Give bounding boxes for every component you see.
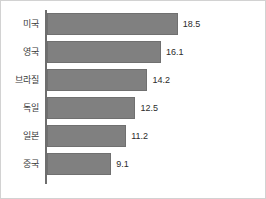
bar-value-label: 9.1 xyxy=(116,153,129,175)
bar-value-label: 14.2 xyxy=(152,69,170,91)
bar-category-label: 미국 xyxy=(1,13,39,35)
bar-value-label: 16.1 xyxy=(166,41,184,63)
bar-rect[interactable] xyxy=(47,13,178,35)
bar-rect[interactable] xyxy=(47,97,135,119)
bar-value-label: 12.5 xyxy=(140,97,158,119)
bar-row: 브라질 14.2 xyxy=(1,69,265,91)
bar-category-label: 브라질 xyxy=(1,69,39,91)
bar-rect[interactable] xyxy=(47,153,111,175)
bar-category-label: 독일 xyxy=(1,97,39,119)
chart-frame: 미국 18.5 영국 16.1 브라질 14.2 독일 12.5 일본 11.2… xyxy=(0,0,266,199)
bar-value-label: 18.5 xyxy=(183,13,201,35)
bar-row: 독일 12.5 xyxy=(1,97,265,119)
bar-row: 중국 9.1 xyxy=(1,153,265,175)
plot-area: 미국 18.5 영국 16.1 브라질 14.2 독일 12.5 일본 11.2… xyxy=(1,1,265,198)
bar-row: 영국 16.1 xyxy=(1,41,265,63)
bar-rect[interactable] xyxy=(47,69,147,91)
bar-rect[interactable] xyxy=(47,41,161,63)
bar-category-label: 중국 xyxy=(1,153,39,175)
bar-row: 미국 18.5 xyxy=(1,13,265,35)
bar-category-label: 영국 xyxy=(1,41,39,63)
bar-row: 일본 11.2 xyxy=(1,125,265,147)
bar-rect[interactable] xyxy=(47,125,126,147)
bar-category-label: 일본 xyxy=(1,125,39,147)
bar-value-label: 11.2 xyxy=(131,125,148,147)
